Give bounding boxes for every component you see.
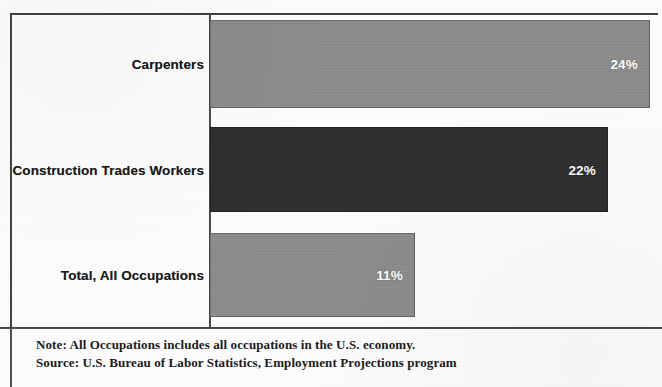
bar-category-label-total-all-occupations: Total, All Occupations	[61, 268, 204, 283]
bar-row-construction-trades-workers: Construction Trades Workers 22%	[0, 127, 662, 212]
footnote-source: Source: U.S. Bureau of Labor Statistics,…	[36, 354, 636, 372]
bar-value-label-construction-trades-workers: 22%	[568, 162, 596, 177]
bar-value-label-carpenters: 24%	[610, 57, 638, 72]
bar-row-total-all-occupations: Total, All Occupations 11%	[0, 233, 662, 317]
bar-construction-trades-workers: 22%	[210, 127, 608, 212]
chart-footnotes: Note: All Occupations includes all occup…	[36, 336, 636, 371]
bar-total-all-occupations: 11%	[210, 233, 415, 317]
bar-chart-figure: Carpenters 24% Construction Trades Worke…	[0, 0, 662, 387]
footnote-note: Note: All Occupations includes all occup…	[36, 336, 636, 354]
footer-left-border	[10, 329, 12, 387]
value-axis-baseline	[0, 327, 662, 329]
bar-category-label-carpenters: Carpenters	[132, 57, 204, 72]
plot-area: Carpenters 24% Construction Trades Worke…	[0, 0, 662, 327]
bar-value-label-total-all-occupations: 11%	[376, 268, 403, 283]
bar-row-carpenters: Carpenters 24%	[0, 20, 662, 108]
bar-carpenters: 24%	[210, 20, 650, 108]
bar-category-label-construction-trades-workers: Construction Trades Workers	[13, 162, 205, 177]
